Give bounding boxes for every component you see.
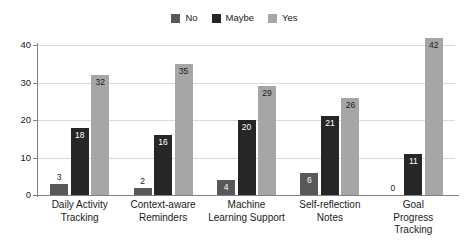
bar[interactable]: 20	[238, 120, 256, 195]
category-label: Self-reflection Notes	[299, 199, 360, 224]
bar[interactable]: 3	[50, 184, 68, 195]
bar[interactable]: 2	[134, 188, 152, 196]
bar-value-label: 29	[262, 89, 271, 98]
bar-value-label: 20	[242, 123, 251, 132]
bar-value-label: 21	[325, 119, 334, 128]
y-axis-tick-label: 30	[0, 78, 31, 88]
bar-value-label: 3	[57, 173, 62, 182]
bar-value-label: 4	[224, 183, 229, 192]
category-label: Context-aware Reminders	[131, 199, 196, 224]
bar-value-label: 32	[95, 78, 104, 87]
bar-value-label: 6	[307, 176, 312, 185]
y-axis-tick-mark	[33, 83, 37, 84]
bar[interactable]: 11	[404, 154, 422, 195]
bar[interactable]: 29	[258, 86, 276, 195]
bar[interactable]: 4	[217, 180, 235, 195]
x-axis-category-labels: Daily Activity TrackingContext-aware Rem…	[38, 199, 459, 239]
bar[interactable]: 6	[300, 173, 318, 196]
bar[interactable]: 16	[154, 135, 172, 195]
bar[interactable]: 26	[341, 98, 359, 196]
bar-value-label: 42	[429, 41, 438, 50]
y-axis-tick-mark	[33, 45, 37, 46]
bar[interactable]: 35	[175, 64, 193, 195]
category-label: Goal Progress Tracking	[390, 199, 436, 237]
bar[interactable]: 18	[71, 128, 89, 196]
y-axis-tick-label: 20	[0, 115, 31, 125]
bar[interactable]: 21	[321, 116, 339, 195]
bar-value-label: 18	[75, 131, 84, 140]
bar-value-label: 35	[179, 67, 188, 76]
y-axis-tick-labels: 010203040	[0, 0, 31, 246]
y-axis-tick-label: 40	[0, 40, 31, 50]
y-axis-tick-label: 10	[0, 153, 31, 163]
bar[interactable]: 32	[91, 75, 109, 195]
y-axis-tick-mark	[33, 195, 37, 196]
bar-value-label: 16	[158, 138, 167, 147]
bar-value-label: 0	[390, 184, 395, 193]
y-axis-tick-mark	[33, 120, 37, 121]
y-axis-tick-mark	[33, 158, 37, 159]
bar-chart: NoMaybeYes 010203040 3183221635420296212…	[0, 0, 469, 246]
bar[interactable]: 42	[425, 38, 443, 196]
bar-value-label: 26	[346, 101, 355, 110]
bar-value-label: 11	[409, 157, 418, 166]
category-label: Daily Activity Tracking	[52, 199, 108, 224]
y-axis-tick-label: 0	[0, 190, 31, 200]
category-label: Machine Learning Support	[208, 199, 285, 224]
bar-value-label: 2	[140, 177, 145, 186]
